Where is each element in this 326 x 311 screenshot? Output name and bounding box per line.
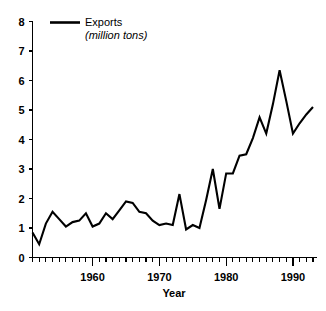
y-tick-label-5: 5 [18,104,24,116]
legend-sublabel-units: (million tons) [85,29,148,41]
y-axis-tick-labels: 012345678 [18,16,25,264]
legend-label-exports: Exports [85,16,123,28]
y-tick-label-0: 0 [18,252,24,264]
x-tick-label-1980: 1980 [214,271,238,283]
x-tick-label-1990: 1990 [281,271,305,283]
y-tick-label-2: 2 [18,193,24,205]
x-axis-tick-labels: 1960197019801990 [80,271,305,283]
y-tick-label-1: 1 [18,222,24,234]
y-tick-label-7: 7 [18,45,24,57]
y-tick-label-3: 3 [18,163,24,175]
y-tick-label-4: 4 [18,134,25,146]
x-axis-title: Year [162,287,186,299]
x-tick-label-1970: 1970 [147,271,171,283]
y-tick-label-6: 6 [18,75,24,87]
y-tick-label-8: 8 [18,16,24,28]
chart-figure: 012345678 1960197019801990 Year Exports … [0,0,326,311]
exports-line-chart: 012345678 1960197019801990 Year Exports … [0,0,326,311]
x-tick-label-1960: 1960 [80,271,104,283]
exports-series-line [33,70,314,244]
